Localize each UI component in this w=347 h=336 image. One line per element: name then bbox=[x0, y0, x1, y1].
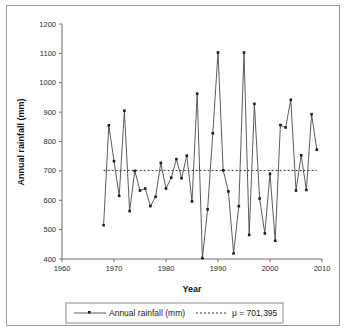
x-axis-tick-label: 1980 bbox=[158, 264, 175, 273]
data-point-marker bbox=[279, 124, 282, 127]
data-point-marker bbox=[227, 190, 230, 193]
y-axis-tick-label: 700 bbox=[43, 166, 56, 175]
x-axis-tick-group: 196019701980199020002010 bbox=[54, 259, 331, 273]
data-point-marker bbox=[222, 169, 225, 172]
data-point-marker bbox=[232, 252, 235, 255]
data-point-marker bbox=[175, 158, 178, 161]
data-point-marker bbox=[212, 132, 215, 135]
figure-container: 400500600700800900100011001200 196019701… bbox=[0, 0, 347, 336]
data-point-marker bbox=[134, 170, 137, 173]
data-point-marker bbox=[295, 189, 298, 192]
data-point-marker bbox=[305, 189, 308, 192]
data-point-marker bbox=[154, 195, 157, 198]
x-axis-tick-label: 2000 bbox=[262, 264, 279, 273]
data-point-marker bbox=[248, 234, 251, 237]
legend-label-series: Annual rainfall (mm) bbox=[109, 308, 185, 318]
data-point-marker bbox=[274, 239, 277, 242]
x-axis-tick-label: 2010 bbox=[314, 264, 331, 273]
y-axis-tick-label: 800 bbox=[43, 137, 56, 146]
data-point-marker bbox=[238, 205, 241, 208]
y-axis-tick-label: 1200 bbox=[39, 20, 56, 29]
data-point-marker bbox=[128, 210, 131, 213]
y-axis-tick-label: 1100 bbox=[40, 49, 56, 58]
data-point-marker bbox=[180, 177, 183, 180]
data-point-marker bbox=[264, 232, 267, 235]
data-point-marker bbox=[191, 200, 194, 203]
data-point-marker bbox=[196, 92, 199, 95]
data-point-marker bbox=[165, 187, 168, 190]
data-point-marker bbox=[243, 51, 246, 54]
data-point-marker bbox=[170, 176, 173, 179]
data-point-marker bbox=[186, 154, 189, 157]
data-point-marker bbox=[316, 148, 319, 151]
data-point-marker bbox=[113, 160, 116, 163]
data-point-marker bbox=[108, 124, 111, 127]
data-point-marker bbox=[300, 154, 303, 157]
y-axis-tick-label: 900 bbox=[43, 108, 56, 117]
y-axis-tick-group: 400500600700800900100011001200 bbox=[39, 20, 62, 264]
rainfall-line-chart: 400500600700800900100011001200 196019701… bbox=[0, 0, 347, 336]
data-point-marker bbox=[290, 98, 293, 101]
data-point-marker bbox=[123, 109, 126, 112]
data-point-marker bbox=[206, 208, 209, 211]
data-point-marker bbox=[160, 162, 163, 165]
data-point-marker bbox=[139, 189, 142, 192]
data-point-marker bbox=[201, 257, 204, 260]
x-axis-tick-label: 1960 bbox=[54, 264, 71, 273]
x-axis-tick-label: 1990 bbox=[210, 264, 227, 273]
legend-label-mean: μ = 701,395 bbox=[232, 308, 278, 318]
data-point-marker bbox=[310, 113, 313, 116]
data-point-marker bbox=[253, 103, 256, 106]
y-axis-tick-label: 400 bbox=[43, 255, 56, 264]
chart-plot-area: 400500600700800900100011001200 196019701… bbox=[0, 0, 347, 336]
y-axis-tick-label: 500 bbox=[43, 225, 56, 234]
x-axis-title: Year bbox=[182, 284, 202, 294]
data-point-marker bbox=[118, 195, 121, 198]
data-point-markers bbox=[102, 51, 318, 259]
data-point-marker bbox=[258, 197, 261, 200]
y-axis-title: Annual rainfall (mm) bbox=[16, 98, 26, 185]
y-axis-tick-label: 1000 bbox=[39, 78, 56, 87]
annual-rainfall-line bbox=[104, 52, 317, 258]
data-point-marker bbox=[102, 224, 105, 227]
data-point-marker bbox=[269, 173, 272, 176]
data-point-marker bbox=[217, 51, 220, 54]
data-point-marker bbox=[284, 126, 287, 129]
legend-series-marker-swatch bbox=[88, 311, 91, 314]
x-axis-tick-label: 1970 bbox=[106, 264, 123, 273]
data-point-marker bbox=[149, 205, 152, 208]
data-point-marker bbox=[144, 187, 147, 190]
y-axis-tick-label: 600 bbox=[43, 196, 56, 205]
